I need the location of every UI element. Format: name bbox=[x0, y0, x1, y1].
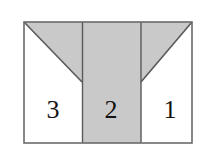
middle-panel-label: 2 bbox=[105, 95, 118, 124]
figure-container: 3 2 1 bbox=[0, 0, 205, 154]
middle-panel-shade bbox=[82, 22, 141, 143]
right-panel-label: 1 bbox=[164, 95, 177, 124]
three-panel-diagram: 3 2 1 bbox=[0, 0, 205, 154]
left-panel-label: 3 bbox=[47, 95, 60, 124]
